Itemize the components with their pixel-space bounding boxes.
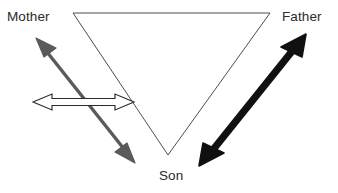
node-label-mother: Mother: [7, 10, 50, 24]
diagram-graphics: [0, 0, 338, 193]
node-label-father: Father: [282, 10, 322, 24]
father-son-arrow-shaft: [212, 50, 293, 151]
node-label-son: Son: [159, 169, 183, 183]
diagram-canvas: Mother Father Son: [0, 0, 338, 193]
father-son-arrow: [199, 34, 306, 166]
father-son-arrowhead-upper: [281, 34, 306, 57]
mother-son-arrowhead-upper: [36, 38, 56, 57]
mother-son-arrowhead-lower: [115, 143, 135, 163]
inverted-triangle-outline: [73, 13, 270, 155]
